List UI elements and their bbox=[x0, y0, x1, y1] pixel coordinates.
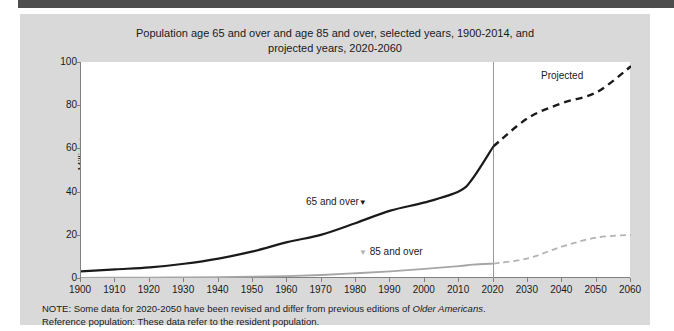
projected-annotation: Projected bbox=[541, 70, 583, 81]
note-line-2: Reference population: These data refer t… bbox=[42, 315, 642, 328]
x-tick-mark-1900 bbox=[80, 278, 81, 282]
x-tick-label-2060: 2060 bbox=[608, 284, 652, 295]
x-tick-mark-2050 bbox=[596, 278, 597, 282]
series-label-65-and-over: 65 and over▼ bbox=[306, 196, 367, 207]
chart-title-line-1: Population age 65 and over and age 85 an… bbox=[50, 26, 620, 41]
chart-title: Population age 65 and over and age 85 an… bbox=[50, 26, 620, 55]
y-tick-label-0: 0 bbox=[37, 272, 77, 283]
x-tick-mark-1930 bbox=[183, 278, 184, 282]
x-tick-mark-2020 bbox=[493, 278, 494, 282]
x-tick-mark-1910 bbox=[114, 278, 115, 282]
y-tick-label-20: 20 bbox=[37, 229, 77, 240]
series-label-85-text: 85 and over bbox=[370, 246, 423, 257]
x-tick-mark-1950 bbox=[252, 278, 253, 282]
x-tick-mark-1980 bbox=[355, 278, 356, 282]
line-85-and-over-historical bbox=[81, 264, 494, 278]
note-line-1-pre: NOTE: Some data for 2020-2050 have been … bbox=[42, 303, 413, 314]
figure-panel: Population age 65 and over and age 85 an… bbox=[20, 14, 650, 325]
x-tick-mark-2060 bbox=[630, 278, 631, 282]
x-tick-mark-1970 bbox=[321, 278, 322, 282]
series-label-65-text: 65 and over bbox=[306, 196, 359, 207]
series-65-triangle-icon: ▼ bbox=[359, 198, 367, 207]
x-tick-mark-2040 bbox=[561, 278, 562, 282]
series-label-85-and-over: ▼ 85 and over bbox=[359, 246, 423, 257]
plot-area-wrapper: Millions 0 20 40 60 80 100 1900 1910 192… bbox=[80, 62, 630, 278]
x-tick-mark-1990 bbox=[389, 278, 390, 282]
line-65-and-over-historical bbox=[81, 146, 494, 271]
x-tick-mark-2010 bbox=[458, 278, 459, 282]
x-tick-mark-1920 bbox=[149, 278, 150, 282]
note-line-1: NOTE: Some data for 2020-2050 have been … bbox=[42, 302, 642, 315]
note-line-1-post: . bbox=[483, 303, 486, 314]
x-tick-mark-1960 bbox=[286, 278, 287, 282]
top-decorative-bar bbox=[18, 0, 674, 8]
note-line-1-italic: Older Americans bbox=[413, 303, 483, 314]
y-tick-label-80: 80 bbox=[37, 99, 77, 110]
x-tick-mark-2000 bbox=[424, 278, 425, 282]
y-tick-label-60: 60 bbox=[37, 142, 77, 153]
series-85-triangle-icon: ▼ bbox=[359, 248, 367, 257]
figure-notes: NOTE: Some data for 2020-2050 have been … bbox=[42, 302, 642, 328]
line-85-and-over-projected bbox=[494, 235, 632, 264]
y-tick-label-100: 100 bbox=[37, 56, 77, 67]
chart-lines bbox=[81, 62, 631, 278]
x-tick-mark-1940 bbox=[218, 278, 219, 282]
y-tick-label-40: 40 bbox=[37, 186, 77, 197]
chart-title-line-2: projected years, 2020-2060 bbox=[50, 41, 620, 56]
x-tick-mark-2030 bbox=[527, 278, 528, 282]
plot-area: 65 and over▼ ▼ 85 and over Projected bbox=[80, 62, 630, 278]
